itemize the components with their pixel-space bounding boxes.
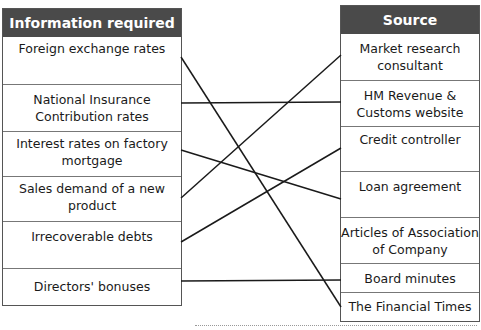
source-row-articles-of-association: Articles of Association of Company: [341, 217, 479, 263]
info-row-national-insurance: National Insurance Contribution rates: [3, 84, 181, 131]
source-row-financial-times: The Financial Times: [341, 292, 479, 320]
source-row-loan-agreement: Loan agreement: [341, 171, 479, 217]
line-sales-demand-to-market-research: [181, 55, 341, 198]
line-nic-to-hmrc: [181, 102, 341, 103]
source-row-market-research: Market research consultant: [341, 34, 479, 80]
info-row-irrecoverable-debts: Irrecoverable debts: [3, 221, 181, 268]
information-required-table: Information required Foreign exchange ra…: [2, 8, 182, 306]
line-interest-to-loan-agreement: [181, 150, 341, 199]
source-row-hmrc: HM Revenue & Customs website: [341, 80, 479, 126]
info-row-foreign-exchange-rates: Foreign exchange rates: [3, 37, 181, 84]
dotted-divider: [195, 325, 477, 326]
line-directors-bonuses-to-board-minutes: [181, 280, 341, 281]
info-row-sales-demand: Sales demand of a new product: [3, 176, 181, 221]
line-foreign-exchange-to-financial-times: [181, 57, 341, 307]
source-row-board-minutes: Board minutes: [341, 263, 479, 292]
source-table: Source Market research consultant HM Rev…: [340, 5, 480, 322]
source-row-credit-controller: Credit controller: [341, 126, 479, 171]
info-row-directors-bonuses: Directors' bonuses: [3, 268, 181, 304]
line-irrecoverable-debts-to-credit-controller: [181, 148, 341, 242]
information-required-header: Information required: [3, 9, 181, 37]
info-row-interest-rates: Interest rates on factory mortgage: [3, 131, 181, 176]
source-header: Source: [341, 6, 479, 34]
